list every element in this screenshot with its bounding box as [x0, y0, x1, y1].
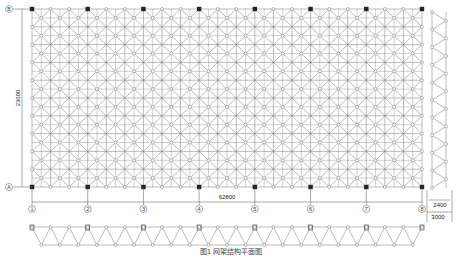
- svg-text:7: 7: [365, 206, 368, 212]
- truss-plan-drawing: 12345678BA 62800 23600 2400 3000 图1 网架结构…: [0, 0, 462, 259]
- svg-text:6: 6: [309, 206, 312, 212]
- svg-text:3: 3: [142, 206, 145, 212]
- side-section-view: [427, 11, 452, 223]
- svg-text:8: 8: [420, 206, 423, 212]
- svg-text:5: 5: [253, 206, 256, 212]
- svg-text:4: 4: [198, 206, 201, 212]
- section-height-label-inner: 2400: [433, 202, 447, 208]
- svg-text:2: 2: [86, 206, 89, 212]
- svg-text:1: 1: [30, 206, 33, 212]
- front-section-view: [30, 225, 424, 247]
- space-truss-grid: [31, 8, 424, 189]
- depth-dimension-label: 23600: [15, 89, 21, 106]
- span-dimension-label: 62800: [219, 194, 236, 200]
- figure-caption: 图1 网架结构平面图: [200, 247, 263, 256]
- section-height-label-outer: 3000: [431, 214, 445, 220]
- axis-markers: 12345678BA: [6, 6, 426, 213]
